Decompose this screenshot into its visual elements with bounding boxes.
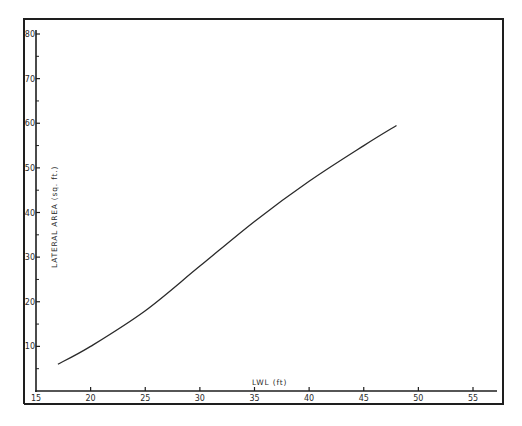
- y-axis-label: LATERAL AREA (sq. ft.): [50, 166, 59, 268]
- x-tick-label: 50: [413, 394, 423, 403]
- y-tick-label: 40: [25, 209, 35, 218]
- x-tick-label: 45: [359, 394, 369, 403]
- y-tick-label: 10: [25, 342, 35, 351]
- y-axis-ticks: 1020304050607080: [25, 30, 40, 369]
- x-axis-label: LWL (ft): [252, 378, 287, 387]
- y-tick-label: 50: [25, 164, 35, 173]
- y-tick-label: 20: [25, 298, 35, 307]
- data-line: [58, 126, 397, 365]
- x-tick-label: 55: [468, 394, 478, 403]
- y-tick-label: 80: [25, 30, 35, 39]
- chart: 152025303540455055 1020304050607080 LWL …: [0, 0, 522, 426]
- x-tick-label: 15: [31, 394, 41, 403]
- x-tick-label: 20: [86, 394, 96, 403]
- x-axis-ticks: 152025303540455055: [31, 387, 478, 403]
- line-chart-svg: 152025303540455055 1020304050607080 LWL …: [0, 0, 522, 426]
- x-tick-label: 40: [304, 394, 314, 403]
- y-tick-label: 70: [25, 75, 35, 84]
- y-tick-label: 60: [25, 119, 35, 128]
- x-tick-label: 35: [249, 394, 259, 403]
- outer-frame: [24, 19, 503, 404]
- y-tick-label: 30: [25, 253, 35, 262]
- x-tick-label: 30: [195, 394, 205, 403]
- x-tick-label: 25: [140, 394, 150, 403]
